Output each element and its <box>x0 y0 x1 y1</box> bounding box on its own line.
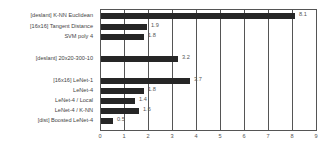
value-label: 0.5 <box>117 116 125 122</box>
bar <box>101 56 178 62</box>
bar <box>101 24 147 30</box>
x-tick-label: 2 <box>143 133 153 139</box>
bar <box>101 98 135 104</box>
x-tick-label: 7 <box>263 133 273 139</box>
x-tick-label: 6 <box>239 133 249 139</box>
bar <box>101 108 139 114</box>
bar <box>101 78 190 84</box>
value-label: 1.4 <box>139 96 147 102</box>
gridline <box>268 9 269 130</box>
value-label: 1.9 <box>151 22 159 28</box>
gridline <box>292 9 293 130</box>
bar <box>101 88 144 94</box>
x-tick-label: 4 <box>191 133 201 139</box>
value-label: 3.2 <box>182 54 190 60</box>
bar-chart: 0123456789[deslant] K-NN Euclidean8.1[16… <box>0 0 332 144</box>
value-label: 1.8 <box>148 86 156 92</box>
category-label: LeNet-4 / Local <box>55 97 93 103</box>
x-tick-label: 0 <box>95 133 105 139</box>
bar <box>101 118 113 124</box>
x-tick-label: 1 <box>119 133 129 139</box>
x-tick-label: 8 <box>287 133 297 139</box>
value-label: 3.7 <box>194 76 202 82</box>
bar <box>101 13 295 19</box>
value-label: 1.6 <box>143 106 151 112</box>
gridline <box>196 9 197 130</box>
x-tick-label: 3 <box>167 133 177 139</box>
category-label: [16x16] Tangent Distance <box>30 23 93 29</box>
gridline <box>244 9 245 130</box>
category-label: [deslant] 20x20-300-10 <box>36 55 93 61</box>
gridline <box>220 9 221 130</box>
category-label: [dist] Boosted LeNet-4 <box>38 117 93 123</box>
value-label: 8.1 <box>299 11 307 17</box>
category-label: [16x16] LeNet-1 <box>53 77 93 83</box>
gridline <box>172 9 173 130</box>
category-label: LeNet-4 <box>73 87 93 93</box>
x-tick-label: 5 <box>215 133 225 139</box>
category-label: [deslant] K-NN Euclidean <box>31 12 94 18</box>
x-tick-label: 9 <box>311 133 321 139</box>
category-label: LeNet-4 / K-NN <box>55 107 93 113</box>
category-label: SVM poly 4 <box>64 33 93 39</box>
bar <box>101 34 144 40</box>
value-label: 1.8 <box>148 32 156 38</box>
